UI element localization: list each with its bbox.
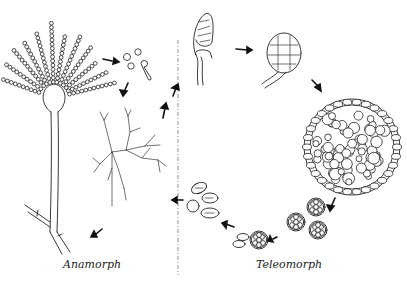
branching-mycelium <box>93 108 166 206</box>
teleomorph-label: Teleomorph <box>256 258 322 271</box>
conidiophore <box>2 21 117 254</box>
mature-cleistothecium <box>303 99 402 195</box>
ascospores <box>187 180 249 247</box>
young-cleistothecium <box>262 33 301 88</box>
ascogonium <box>194 13 213 85</box>
conidia <box>124 49 152 80</box>
life-cycle-diagram <box>0 0 407 289</box>
anamorph-label: Anamorph <box>63 258 121 271</box>
asci <box>250 198 327 249</box>
